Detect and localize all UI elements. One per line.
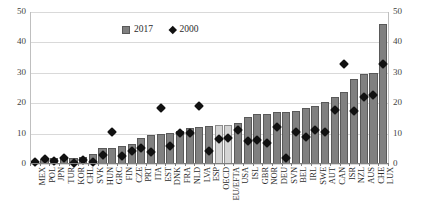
diamond-marker-oecd <box>214 134 224 144</box>
diamond-marker-nld <box>185 128 195 138</box>
x-tick <box>349 163 350 166</box>
diamond-marker-bel <box>291 127 301 137</box>
diamond-marker-usa <box>233 125 243 135</box>
x-tick <box>49 163 50 166</box>
x-tick <box>156 163 157 166</box>
y-axis-left-spine <box>30 12 31 164</box>
x-tick <box>30 163 31 166</box>
diamond-marker-tur <box>59 153 69 163</box>
x-label-nzl: NZL <box>357 167 366 183</box>
y-tick-right-20: 20 <box>393 98 402 107</box>
legend-entry-2000: 2000 <box>170 25 199 35</box>
x-label-esp: ESP <box>212 167 221 181</box>
diamond-marker-eu-efta <box>223 133 233 143</box>
x-tick <box>291 163 292 166</box>
x-tick <box>40 163 41 166</box>
plot-area <box>30 12 388 164</box>
x-label-lux: LUX <box>386 167 395 184</box>
square-marker-icon <box>122 26 130 34</box>
y-tick-left-10: 10 <box>17 129 26 138</box>
x-tick <box>311 163 312 166</box>
x-tick <box>388 163 389 166</box>
x-tick <box>320 163 321 166</box>
x-label-isl: ISL <box>251 167 260 179</box>
x-tick <box>369 163 370 166</box>
x-label-lva: LVA <box>203 167 212 182</box>
x-tick <box>107 163 108 166</box>
diamond-marker-aus <box>359 92 369 102</box>
legend-label-2017: 2017 <box>134 25 153 35</box>
diamond-marker-nor <box>262 138 272 148</box>
x-axis-labels: MEXPOLJPNTURKORCHLSVKHUNGRCFINCZEPRTITAE… <box>30 167 388 223</box>
x-tick <box>78 163 79 166</box>
x-label-isr: ISR <box>348 167 357 180</box>
x-label-eu-efta: EU/EFTA <box>232 167 241 201</box>
diamond-marker-isl <box>243 136 253 146</box>
x-label-svk: SVK <box>96 167 105 184</box>
x-tick <box>214 163 215 166</box>
x-label-gbr: GBR <box>261 167 270 184</box>
x-label-irl: IRL <box>309 167 318 180</box>
x-tick <box>175 163 176 166</box>
x-tick <box>185 163 186 166</box>
x-tick <box>136 163 137 166</box>
legend-entry-2017: 2017 <box>122 25 153 35</box>
x-label-can: CAN <box>338 167 347 185</box>
x-tick <box>272 163 273 166</box>
y-tick-right-30: 30 <box>393 68 402 77</box>
chart-container: 01020304050 01020304050 MEXPOLJPNTURKORC… <box>0 0 421 224</box>
diamond-marker-swe <box>310 125 320 135</box>
y-tick-right-10: 10 <box>393 129 402 138</box>
x-tick <box>378 163 379 166</box>
x-label-kor: KOR <box>77 167 86 185</box>
marker-series-2000 <box>30 12 388 164</box>
y-tick-left-30: 30 <box>17 68 26 77</box>
y-axis-right-spine <box>388 12 389 164</box>
diamond-marker-isr <box>340 59 350 69</box>
diamond-marker-grc <box>107 127 117 137</box>
legend-label-2000: 2000 <box>180 25 199 35</box>
x-label-ita: ITA <box>154 167 163 180</box>
diamond-marker-ita <box>146 147 156 157</box>
x-tick <box>127 163 128 166</box>
y-tick-left-0: 0 <box>22 159 27 168</box>
x-label-swe: SWE <box>319 167 328 185</box>
x-tick <box>330 163 331 166</box>
diamond-marker-fin <box>117 151 127 161</box>
x-label-fin: FIN <box>125 167 134 180</box>
x-label-cze: CZE <box>135 167 144 183</box>
x-tick <box>165 163 166 166</box>
diamond-marker-che <box>369 90 379 100</box>
x-tick <box>262 163 263 166</box>
x-label-bel: BEL <box>299 167 308 183</box>
chart-legend: 2017 2000 <box>122 25 199 35</box>
x-tick <box>88 163 89 166</box>
x-label-nor: NOR <box>270 167 279 185</box>
y-tick-left-20: 20 <box>17 98 26 107</box>
diamond-marker-lux <box>378 59 388 69</box>
diamond-marker-svn <box>281 153 291 163</box>
y-tick-right-50: 50 <box>393 7 402 16</box>
x-label-prt: PRT <box>144 167 153 182</box>
diamond-marker-esp <box>204 146 214 156</box>
diamond-marker-gbr <box>252 135 262 145</box>
y-tick-left-40: 40 <box>17 37 26 46</box>
diamond-marker-deu <box>272 122 282 132</box>
x-tick <box>340 163 341 166</box>
x-tick <box>59 163 60 166</box>
x-tick <box>98 163 99 166</box>
x-tick <box>233 163 234 166</box>
x-label-hun: HUN <box>106 167 115 185</box>
x-label-fra: FRA <box>183 167 192 183</box>
diamond-marker-prt <box>136 143 146 153</box>
x-tick <box>117 163 118 166</box>
x-label-dnk: DNK <box>173 167 182 185</box>
x-tick <box>69 163 70 166</box>
x-tick <box>359 163 360 166</box>
diamond-marker-hun <box>98 150 108 160</box>
diamond-marker-fra <box>175 128 185 138</box>
diamond-marker-lva <box>194 101 204 111</box>
diamond-marker-nzl <box>349 106 359 116</box>
x-label-grc: GRC <box>115 167 124 184</box>
x-label-aus: AUS <box>367 167 376 184</box>
